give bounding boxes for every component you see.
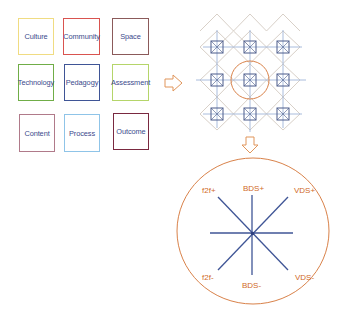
label-vds-plus: VDS+: [294, 186, 315, 195]
label-bds-minus: BDS-: [242, 281, 261, 290]
label-bds-plus: BDS+: [243, 184, 264, 193]
label-f2f-minus: f2f-: [202, 273, 214, 282]
lattice-diagram: [196, 14, 306, 132]
down-arrow-icon: [242, 137, 258, 153]
right-arrow-icon: [165, 75, 182, 91]
label-f2f-plus: f2f+: [202, 186, 216, 195]
diagram-canvas: f2f+ BDS+ VDS+ f2f- BDS- VDS-: [0, 0, 346, 321]
label-vds-minus: VDS-: [295, 273, 314, 282]
axes-center-dot: [251, 232, 255, 236]
axes-diagram: f2f+ BDS+ VDS+ f2f- BDS- VDS-: [177, 158, 329, 304]
